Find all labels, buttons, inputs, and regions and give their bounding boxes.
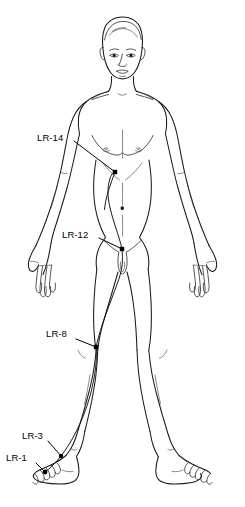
left-foot-top (35, 456, 67, 474)
acupoint-label-lr8: LR-8 (46, 328, 67, 339)
leader-line-lr8 (76, 339, 96, 347)
right-knee-cap (160, 350, 168, 358)
right-thigh-outer (148, 270, 151, 351)
right-forearm-line (187, 182, 194, 208)
acupoint-marker-lr1[interactable] (43, 470, 48, 475)
left-arm-group (28, 102, 86, 297)
right-calf-inner (137, 350, 150, 432)
eyebrow-right (127, 49, 136, 51)
left-thumb (31, 261, 39, 263)
right-ankle-outer (167, 429, 180, 456)
left-ankle-inner (77, 432, 85, 457)
nose (119, 54, 125, 66)
right-malleolus (168, 449, 175, 451)
left-foot-arch (62, 470, 73, 472)
left-malleolus (71, 449, 78, 451)
torso-group (78, 92, 166, 275)
left-arm-outer (36, 102, 87, 246)
right-arm-group (159, 102, 217, 297)
left-ankle-outer (66, 429, 79, 456)
right-thigh-inner (127, 272, 137, 350)
right-foot-top (179, 456, 211, 474)
head-outline (103, 17, 143, 79)
pectoral-left (92, 136, 122, 156)
hairline (105, 21, 142, 40)
sternal-notch (118, 94, 127, 96)
nipple-left (105, 148, 109, 150)
acupoint-marker-lr8[interactable] (94, 345, 98, 349)
left-elbow-crease (61, 172, 68, 174)
mouth (117, 70, 128, 73)
leader-line-lr3 (48, 441, 61, 456)
left-hand-outline (28, 246, 38, 272)
neck-left (109, 77, 112, 92)
inguinal-crease-right (127, 241, 142, 253)
eye-left-pupil (113, 54, 116, 57)
right-hand-outline (207, 246, 217, 272)
neck-right (133, 77, 136, 92)
hip-left (96, 238, 105, 270)
acupoint-label-lr3: LR-3 (22, 430, 43, 441)
left-knuckle-line (38, 265, 52, 266)
nostril-left (118, 64, 119, 66)
right-foot-arch (172, 470, 183, 472)
right-foot-sole (156, 457, 202, 485)
hair-strand-1 (109, 29, 137, 37)
eyebrow-left (110, 49, 119, 51)
left-toe-5 (55, 463, 60, 474)
right-toe-5 (185, 463, 190, 474)
acupoint-label-lr1: LR-1 (6, 452, 27, 463)
acupoint-marker-lr3[interactable] (59, 454, 63, 458)
leader-line-lr12 (99, 238, 122, 249)
meridian-line-foot-to-knee (45, 347, 96, 472)
right-hand-palm (194, 244, 202, 275)
navel (121, 206, 124, 210)
nipple-right (137, 148, 141, 150)
right-elbow-crease (178, 172, 185, 174)
right-ankle-inner (150, 432, 158, 457)
left-thigh-outer (94, 270, 97, 351)
acupoint-marker-lr12[interactable] (120, 247, 124, 251)
hip-right (140, 238, 149, 270)
right-leg-group (127, 270, 212, 485)
left-thigh-inner (98, 272, 118, 350)
right-toe-4 (190, 465, 195, 477)
left-forearm-line (51, 182, 58, 208)
right-great-toe (207, 474, 212, 485)
meridian-line-groin-to-chest (108, 172, 122, 249)
acupoint-label-lr12: LR-12 (62, 229, 88, 240)
left-leg-group (33, 270, 118, 485)
head-group (100, 17, 145, 79)
acupoint-marker-lr14[interactable] (113, 170, 117, 174)
eye-right-pupil (130, 54, 133, 57)
right-knuckle-line (193, 265, 207, 266)
right-arm-outer (159, 102, 210, 246)
acupoint-chart-root: LR-14 LR-12 LR-8 LR-3 LR-1 (0, 0, 245, 507)
meridian-line-knee-to-groin (96, 249, 122, 347)
left-hand-palm (43, 244, 51, 275)
nostril-right (125, 64, 126, 66)
pectoral-right (123, 136, 153, 156)
waist-left (94, 160, 106, 238)
rib-margin-right (126, 163, 143, 180)
neck-shoulders-group (92, 77, 154, 100)
chin-crease (120, 76, 126, 77)
acupoint-label-lr14: LR-14 (37, 132, 63, 143)
liver-meridian-pathway (45, 172, 122, 472)
right-thumb (207, 261, 215, 263)
waist-right (140, 160, 152, 238)
left-knee-cap (78, 350, 86, 358)
